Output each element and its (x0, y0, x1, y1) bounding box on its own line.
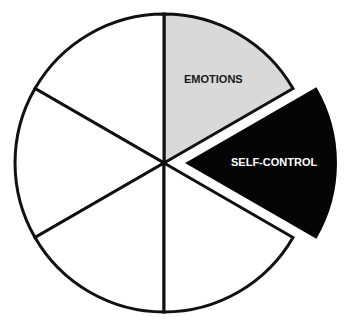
label-emotions: EMOTIONS (184, 73, 243, 85)
wheel-diagram: EMOTIONS SELF-CONTROL (0, 0, 345, 328)
label-self-control: SELF-CONTROL (231, 156, 317, 168)
